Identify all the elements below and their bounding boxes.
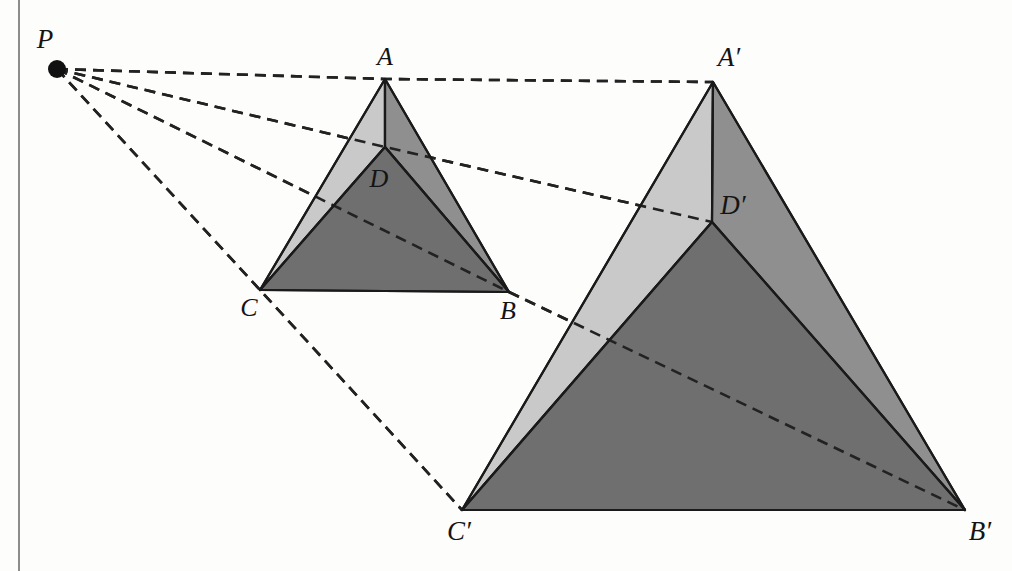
- dilation-diagram: PABCDA′B′C′D′: [0, 0, 1012, 571]
- vertex-label-c-prime: C′: [447, 516, 472, 546]
- face-BpCpDp-front: [462, 222, 965, 510]
- vertex-label-d-prime: D′: [719, 190, 746, 220]
- vertex-label-p: P: [36, 24, 54, 54]
- vertex-label-b: B: [500, 296, 516, 325]
- edge-ApDp: [712, 82, 713, 222]
- center-point-P: [48, 60, 66, 78]
- vertex-label-d: D: [369, 164, 389, 193]
- vertex-label-a-prime: A′: [716, 42, 741, 72]
- diagram-canvas: PABCDA′B′C′D′: [0, 0, 1012, 571]
- vertex-label-a: A: [375, 42, 393, 71]
- vertex-label-c: C: [240, 293, 258, 322]
- vertex-label-b-prime: B′: [969, 516, 992, 546]
